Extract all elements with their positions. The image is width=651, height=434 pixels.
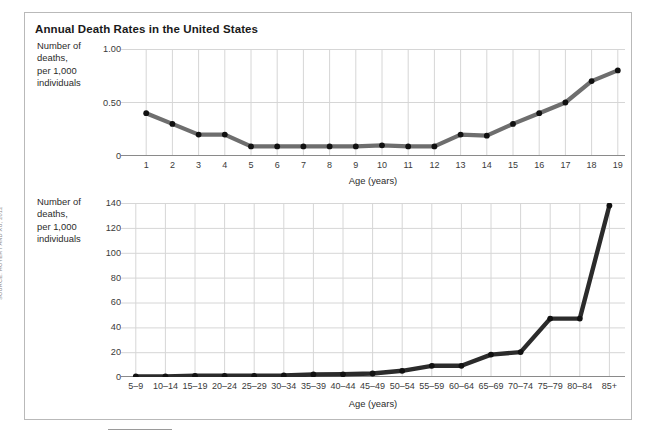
top-xtick-18: 18	[587, 160, 597, 170]
bottom-xtick-65-69: 65–69	[478, 381, 503, 391]
top-y-caption-line-3: per 1,000	[37, 65, 107, 77]
top-y-caption-line-4: individuals	[37, 77, 107, 89]
bottom-xtick-45-49: 45–49	[360, 381, 385, 391]
top-xtick-11: 11	[404, 160, 413, 170]
top-xtick-8: 8	[327, 160, 332, 170]
source-note: SOURCE: HOYERT AND XU, 2012	[0, 207, 3, 300]
bottom-xtick-15-19: 15–19	[182, 381, 207, 391]
bottom-y-caption-line-4: individuals	[37, 233, 107, 245]
top-y-caption-line-2: deaths,	[37, 52, 107, 64]
top-chart-plot-area	[121, 49, 625, 156]
top-xtick-19: 19	[613, 160, 623, 170]
bottom-xtick-70-74: 70–74	[508, 381, 533, 391]
top-xtick-16: 16	[534, 160, 544, 170]
bottom-xtick-35-39: 35–39	[301, 381, 326, 391]
top-xtick-2: 2	[170, 160, 175, 170]
bottom-chart-svg	[121, 203, 625, 377]
top-xtick-4: 4	[222, 160, 227, 170]
bottom-xtick-30-34: 30–34	[271, 381, 296, 391]
page-title: Annual Death Rates in the United States	[35, 23, 258, 35]
top-xtick-7: 7	[301, 160, 306, 170]
bottom-xtick-75-79: 75–79	[538, 381, 563, 391]
bottom-chart-x-axis-label: Age (years)	[349, 398, 397, 409]
top-chart-x-axis-label: Age (years)	[349, 175, 397, 186]
top-xtick-3: 3	[196, 160, 201, 170]
bottom-xtick-55-59: 55–59	[419, 381, 444, 391]
top-xtick-14: 14	[482, 160, 492, 170]
top-xtick-1: 1	[144, 160, 149, 170]
top-chart-svg	[121, 49, 625, 156]
bottom-ytick-80: 80	[87, 273, 121, 283]
bottom-ytick-20: 20	[87, 347, 121, 357]
top-xtick-12: 12	[429, 160, 439, 170]
bottom-xtick-85plus: 85+	[602, 381, 617, 391]
bottom-xtick-60-64: 60–64	[449, 381, 474, 391]
bottom-ytick-120: 120	[87, 223, 121, 233]
top-xtick-10: 10	[377, 160, 387, 170]
bottom-xtick-20-24: 20–24	[212, 381, 237, 391]
bottom-ytick-40: 40	[87, 322, 121, 332]
bottom-chart-plot-area	[121, 203, 625, 377]
top-xtick-9: 9	[353, 160, 358, 170]
top-ytick-3: 0	[87, 151, 121, 161]
top-xtick-13: 13	[456, 160, 466, 170]
bottom-xtick-50-54: 50–54	[390, 381, 415, 391]
bottom-ytick-60: 60	[87, 297, 121, 307]
top-xtick-15: 15	[508, 160, 518, 170]
bottom-y-caption-line-2: deaths,	[37, 208, 107, 220]
bottom-xtick-40-44: 40–44	[330, 381, 355, 391]
bottom-ytick-0: 0	[87, 372, 121, 382]
bottom-divider-rule	[108, 429, 172, 430]
top-ytick-1: 1.00	[87, 44, 121, 54]
figure-frame: Annual Death Rates in the United States …	[24, 12, 632, 420]
bottom-gridlines-vertical	[136, 203, 610, 377]
bottom-ytick-100: 100	[87, 248, 121, 258]
bottom-xtick-10-14: 10–14	[153, 381, 178, 391]
bottom-xtick-25-29: 25–29	[242, 381, 267, 391]
bottom-xtick-80-84: 80–84	[567, 381, 592, 391]
bottom-ytick-140: 140	[87, 198, 121, 208]
bottom-xtick-5-9: 5–9	[128, 381, 143, 391]
top-xtick-17: 17	[560, 160, 570, 170]
top-xtick-6: 6	[275, 160, 280, 170]
top-xtick-5: 5	[248, 160, 253, 170]
top-ytick-2: 0.50	[87, 98, 121, 108]
